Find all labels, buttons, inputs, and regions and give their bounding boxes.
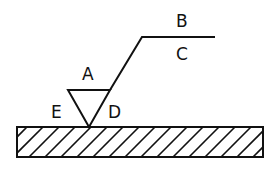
label-b: B bbox=[176, 11, 188, 31]
surface-finish-triangle bbox=[68, 90, 110, 127]
label-c: C bbox=[176, 44, 188, 64]
label-d: D bbox=[108, 102, 121, 122]
label-e: E bbox=[51, 102, 62, 122]
surface-symbol-diagram: A B C D E bbox=[0, 0, 279, 180]
leader-line bbox=[110, 37, 215, 90]
label-a: A bbox=[82, 64, 94, 84]
hatched-surface bbox=[0, 127, 279, 157]
